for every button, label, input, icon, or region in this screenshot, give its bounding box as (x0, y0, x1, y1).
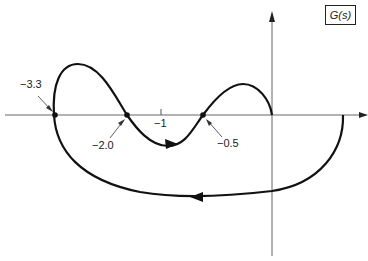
label-minus-3-3: −3.3 (20, 78, 42, 90)
label-minus-2-0: −2.0 (92, 139, 114, 151)
pointer-arrow-icon (118, 119, 125, 126)
label-minus-0-5: −0.5 (217, 137, 239, 149)
imaginary-axis-arrow-icon (269, 11, 275, 22)
nyquist-curve (54, 64, 343, 196)
crossing-point-minus-3-3 (52, 112, 58, 118)
real-axis-arrow-icon (359, 112, 368, 118)
crossing-point-minus-0-5 (200, 112, 206, 118)
nyquist-diagram (0, 0, 368, 261)
crossing-point-minus-2-0 (124, 112, 130, 118)
direction-arrow-icon (190, 192, 203, 202)
label-minus-1: −1 (154, 117, 167, 129)
transfer-function-label: G(s) (325, 5, 356, 25)
direction-arrow-icon (165, 139, 178, 149)
